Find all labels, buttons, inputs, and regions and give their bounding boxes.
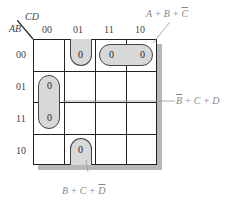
expr-part: A + B + bbox=[146, 8, 182, 19]
expr-part: B + C + bbox=[62, 185, 98, 196]
group-label-a-b-cbar: A + B + C bbox=[146, 8, 188, 19]
expr-part-negated: D bbox=[98, 185, 105, 196]
expr-part-negated: C bbox=[182, 8, 189, 19]
expr-part: + C + D bbox=[182, 95, 219, 106]
group-label-bbar-c-d: B + C + D bbox=[176, 95, 220, 106]
group-label-b-c-dbar: B + C + D bbox=[62, 185, 106, 196]
